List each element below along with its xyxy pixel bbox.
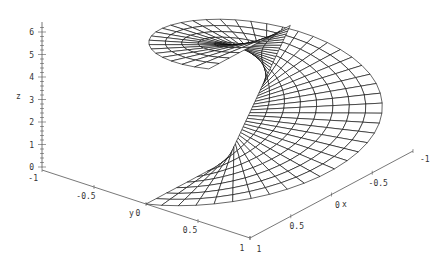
z-axis-label: z (16, 92, 21, 101)
z-tick-label: 0 (29, 163, 34, 172)
surface-patch (149, 40, 166, 45)
surface-patch (365, 103, 382, 113)
z-tick-label: 3 (29, 96, 34, 105)
z-tick-label: 1 (29, 141, 34, 150)
surface-patch (349, 104, 366, 113)
surface-patch (332, 97, 349, 106)
z-tick-label: 6 (29, 28, 34, 37)
surface-mesh (146, 19, 382, 206)
surface-patch (363, 113, 382, 123)
z-tick-label: 4 (29, 73, 34, 82)
surface-patch (332, 105, 349, 113)
surface-patch (266, 108, 284, 113)
z-tick-label: 2 (29, 118, 34, 127)
axis-tick-labels: 0123456-1-0.500.510.50-0.5-11 (28, 28, 429, 254)
x-tick-label: 1 (257, 245, 262, 254)
y-tick-label: 1 (240, 244, 245, 253)
surface-patch (330, 113, 349, 121)
y-tick-label: 0.5 (183, 226, 198, 235)
surface-patch (348, 95, 366, 105)
surface-patch (316, 106, 333, 113)
y-tick-label: -0.5 (76, 192, 95, 201)
surface-patch (347, 113, 366, 122)
y-tick-label: 0 (136, 209, 141, 218)
surface-patch (316, 98, 333, 106)
y-axis-label: y (129, 209, 134, 218)
x-tick-label: 0 (335, 201, 340, 210)
x-axis-label: x (342, 200, 347, 209)
surface-patch (283, 107, 300, 113)
x-tick-label: -1 (420, 155, 430, 164)
x-tick-label: -0.5 (369, 179, 388, 188)
z-tick-label: 5 (29, 51, 34, 60)
y-tick-label: -1 (28, 174, 38, 183)
surface-patch (364, 93, 382, 104)
surface-patch (299, 107, 316, 113)
surface-patch (250, 109, 268, 113)
x-tick-label: 0.5 (290, 222, 305, 231)
helicoid-surface-plot: 0123456-1-0.500.510.50-0.5-11 z y x (0, 0, 437, 255)
